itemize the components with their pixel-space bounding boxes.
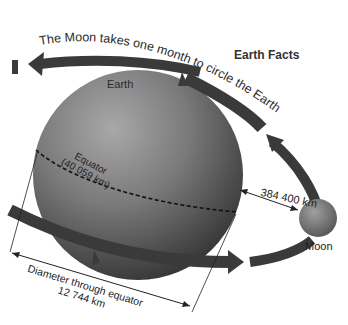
earth-label: Earth: [107, 78, 133, 90]
moon-label: Moon: [305, 240, 333, 252]
diagram-title: Earth Facts: [234, 48, 299, 62]
earth-facts-diagram: The Moon takes one month to circle the E…: [0, 0, 348, 325]
